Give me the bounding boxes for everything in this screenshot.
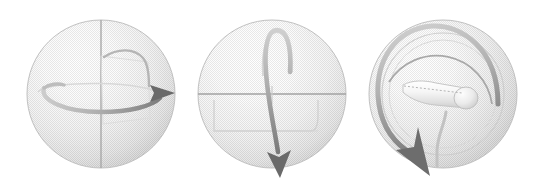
rotation-figure [0, 0, 544, 186]
figure-root [0, 0, 544, 186]
rod-cap [454, 87, 478, 109]
